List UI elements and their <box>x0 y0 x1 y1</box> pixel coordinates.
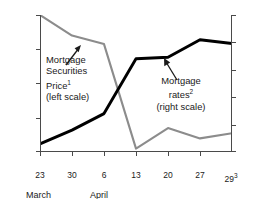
price-annotation-line4: (left scale) <box>46 91 89 102</box>
right-tick-10.5 <box>231 42 236 43</box>
x-label-20: 20 <box>151 171 185 180</box>
left-tick-100 <box>36 15 40 16</box>
x-label-13: 13 <box>119 171 153 180</box>
right-tick-11.0 <box>231 15 236 16</box>
rates-annotation-line3: (right scale) <box>138 101 224 112</box>
x-label-27: 27 <box>183 171 217 180</box>
chart-figure: Price per $100 100 98 96 94 92 11.0% 10.… <box>0 0 278 199</box>
price-annotation-superscript: 1 <box>67 79 71 86</box>
left-tick-94 <box>36 118 40 119</box>
left-tick-98 <box>36 49 40 50</box>
x-tick-6 <box>104 152 105 156</box>
price-annotation-line3: Price1 <box>46 77 89 92</box>
x-tick-23 <box>40 152 41 156</box>
x-label-29-text: 29 <box>224 174 233 184</box>
x-label-29-superscript: 3 <box>234 172 238 179</box>
x-label-23: 23 <box>23 171 57 180</box>
right-tick-8.5 <box>231 151 236 152</box>
price-annotation-line2: Securities <box>46 65 89 76</box>
x-tick-20 <box>168 152 169 156</box>
x-tick-13 <box>136 152 137 156</box>
rates-annotation: Mortgage rates2 (right scale) <box>138 75 224 112</box>
rates-annotation-line2-text: rates <box>169 90 190 101</box>
price-annotation: Mortgage Securities Price1 (left scale) <box>46 54 89 103</box>
rates-annotation-superscript: 2 <box>190 88 194 95</box>
left-tick-96 <box>36 83 40 84</box>
right-tick-10.0 <box>231 70 236 71</box>
x-label-29: 293 <box>214 171 248 184</box>
right-axis-line <box>231 15 232 152</box>
x-label-6: 6 <box>87 171 121 180</box>
rates-annotation-line2: rates2 <box>138 86 224 101</box>
right-tick-9.0 <box>231 125 236 126</box>
x-label-30: 30 <box>55 171 89 180</box>
left-axis-line <box>40 15 41 152</box>
rates-annotation-line1: Mortgage <box>138 75 224 86</box>
footnote <box>18 192 268 199</box>
x-tick-30 <box>72 152 73 156</box>
right-tick-9.5 <box>231 97 236 98</box>
x-tick-27 <box>200 152 201 156</box>
price-annotation-line1: Mortgage <box>46 54 89 65</box>
price-annotation-line3-text: Price <box>46 80 67 91</box>
